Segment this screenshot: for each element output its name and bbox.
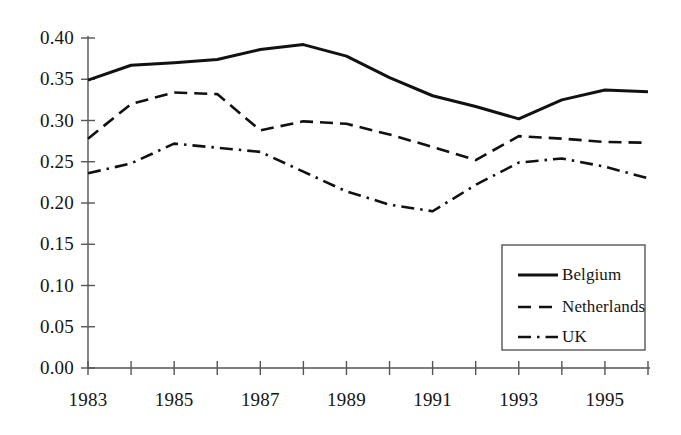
y-axis-tick-label: 0.00 bbox=[16, 358, 74, 377]
x-axis-tick-label: 1983 bbox=[56, 390, 120, 409]
series-line-belgium bbox=[88, 45, 648, 119]
y-axis-tick-label: 0.35 bbox=[16, 69, 74, 88]
x-axis-tick-label: 1993 bbox=[487, 390, 551, 409]
x-axis-tick-label: 1995 bbox=[573, 390, 637, 409]
x-axis-tick-label: 1987 bbox=[228, 390, 292, 409]
y-axis-tick-label: 0.20 bbox=[16, 193, 74, 212]
x-axis-tick-label: 1989 bbox=[314, 390, 378, 409]
legend-entry-belgium: Belgium bbox=[562, 266, 621, 283]
y-axis-tick-label: 0.40 bbox=[16, 28, 74, 47]
x-axis-tick-label: 1985 bbox=[142, 390, 206, 409]
series-line-uk bbox=[88, 144, 648, 212]
legend-entry-netherlands: Netherlands bbox=[562, 298, 645, 315]
y-axis-tick-label: 0.30 bbox=[16, 111, 74, 130]
chart-plot-area bbox=[0, 0, 681, 435]
x-axis-tick-label: 1991 bbox=[401, 390, 465, 409]
y-axis-tick-label: 0.05 bbox=[16, 317, 74, 336]
y-axis-tick-label: 0.15 bbox=[16, 234, 74, 253]
series-lines-group bbox=[88, 45, 648, 212]
series-line-netherlands bbox=[88, 92, 648, 160]
legend-entry-uk: UK bbox=[562, 328, 587, 345]
chart-container: 0.000.050.100.150.200.250.300.350.40 198… bbox=[0, 0, 681, 435]
y-axis-tick-label: 0.25 bbox=[16, 152, 74, 171]
y-axis-tick-label: 0.10 bbox=[16, 276, 74, 295]
